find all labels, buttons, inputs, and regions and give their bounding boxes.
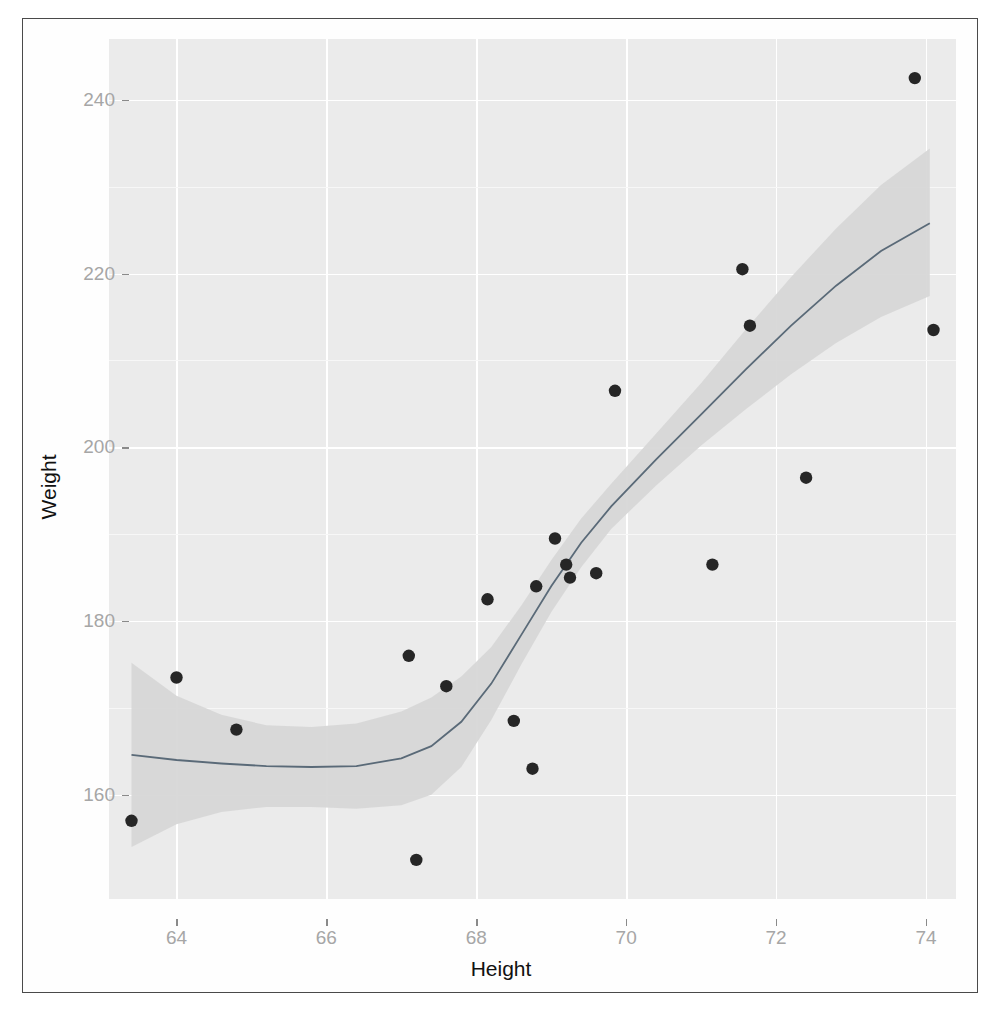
y-axis-title: Weight	[37, 455, 61, 520]
x-axis-title: Height	[23, 957, 979, 981]
y-tick-label: 160	[83, 784, 115, 806]
y-tick-label: 200	[83, 436, 115, 458]
data-point	[530, 580, 542, 592]
data-point	[706, 558, 718, 570]
x-tick-mark	[476, 919, 477, 926]
y-tick-label: 220	[83, 263, 115, 285]
y-tick-mark	[122, 100, 129, 101]
y-tick-mark	[122, 621, 129, 622]
y-tick-mark	[122, 795, 129, 796]
x-tick-label: 70	[616, 927, 637, 949]
confidence-band	[132, 149, 930, 847]
x-tick-label: 74	[915, 927, 936, 949]
data-point	[800, 472, 812, 484]
y-tick-mark	[122, 274, 129, 275]
data-point	[927, 324, 939, 336]
data-point	[440, 680, 452, 692]
data-point	[410, 854, 422, 866]
figure-container: 646668707274 160180200220240 Height Weig…	[0, 0, 993, 1025]
data-point	[526, 763, 538, 775]
x-tick-mark	[176, 919, 177, 926]
x-tick-mark	[776, 919, 777, 926]
data-point	[744, 320, 756, 332]
data-point	[609, 385, 621, 397]
x-tick-label: 68	[466, 927, 487, 949]
data-point	[170, 671, 182, 683]
plot-panel	[109, 39, 956, 899]
data-point	[549, 532, 561, 544]
data-point	[560, 558, 572, 570]
x-tick-label: 72	[766, 927, 787, 949]
data-point	[125, 815, 137, 827]
data-point	[590, 567, 602, 579]
plot-canvas	[109, 39, 956, 899]
data-point	[909, 72, 921, 84]
data-point	[230, 723, 242, 735]
data-point	[508, 715, 520, 727]
x-tick-mark	[926, 919, 927, 926]
y-tick-label: 240	[83, 89, 115, 111]
data-point	[564, 571, 576, 583]
y-tick-mark	[122, 447, 129, 448]
x-tick-mark	[626, 919, 627, 926]
x-tick-label: 64	[166, 927, 187, 949]
figure-frame: 646668707274 160180200220240 Height Weig…	[22, 18, 978, 993]
data-point	[403, 650, 415, 662]
data-point	[481, 593, 493, 605]
data-point	[736, 263, 748, 275]
y-tick-label: 180	[83, 610, 115, 632]
x-tick-mark	[326, 919, 327, 926]
x-tick-label: 66	[316, 927, 337, 949]
